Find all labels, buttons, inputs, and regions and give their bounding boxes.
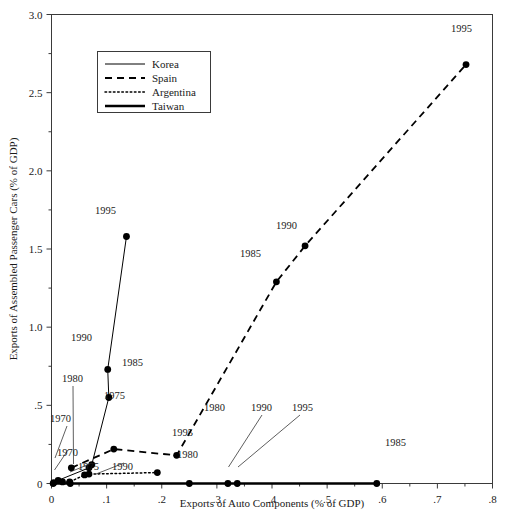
annotation-spain-1985: 1985	[240, 248, 261, 259]
chart-legend: KoreaSpainArgentinaTaiwan	[98, 52, 211, 113]
annotation-spain-1975: 1975	[104, 390, 125, 401]
x-tick-label: .7	[433, 493, 442, 505]
x-tick-label: .2	[158, 493, 166, 505]
x-tick-label: .6	[378, 493, 387, 505]
data-point-taiwan-1975	[67, 480, 74, 487]
x-tick-label: 0	[49, 493, 55, 505]
data-point-taiwan-1995	[234, 480, 241, 487]
annotation-korea-1995: 1995	[95, 205, 116, 216]
figure-container: 0.1.2.3.4.5.6.7.8 0.51.01.52.02.53.0 199…	[0, 0, 508, 524]
y-tick-label: 2.0	[29, 165, 43, 177]
annotation-taiwan-1990: 1990	[251, 402, 272, 413]
y-tick-label: 1.5	[29, 243, 43, 255]
annotation-korea-1980: 1980	[62, 373, 83, 384]
y-tick-label: 1.0	[29, 321, 43, 333]
data-point-taiwan-1970	[50, 480, 57, 487]
data-point-argentina-1980	[59, 479, 66, 486]
scatter-chart: 0.1.2.3.4.5.6.7.8 0.51.01.52.02.53.0 199…	[0, 0, 508, 524]
data-point-spain-1975	[110, 446, 117, 453]
y-tick-label: .5	[34, 399, 43, 411]
data-point-spain-1990	[302, 242, 309, 249]
data-point-korea-1990	[104, 366, 111, 373]
data-point-spain-1995	[463, 61, 470, 68]
data-point-taiwan-1985	[373, 480, 380, 487]
annotation-korea-1970: 1970	[50, 413, 71, 424]
annotation-argentina-1995: 1995	[172, 427, 193, 438]
legend-label-argentina: Argentina	[152, 86, 196, 98]
data-point-taiwan-1980	[186, 480, 193, 487]
annotation-taiwan-1980: 1980	[177, 449, 198, 460]
y-tick-label: 2.5	[29, 87, 43, 99]
x-tick-label: .8	[488, 493, 497, 505]
annotation-taiwan-1990: 1990	[112, 461, 133, 472]
y-tick-label: 0	[37, 478, 43, 490]
annotation-spain-1995: 1995	[451, 23, 472, 34]
annotation-korea-1985: 1985	[122, 357, 143, 368]
annotation-korea-1990: 1990	[71, 332, 92, 343]
data-point-argentina-1995	[154, 469, 161, 476]
legend-label-spain: Spain	[152, 72, 178, 84]
annotation-taiwan-1995: 1995	[292, 402, 313, 413]
data-point-spain-1985	[273, 278, 280, 285]
data-point-taiwan-1990	[225, 480, 232, 487]
figure-background	[0, 0, 508, 524]
annotation-spain-1990: 1990	[276, 220, 297, 231]
annotation-spain-1980: 1980	[204, 402, 225, 413]
y-axis-title: Exports of Assembled Passenger Cars (% o…	[7, 137, 20, 360]
data-point-korea-1995	[123, 233, 130, 240]
y-tick-label: 3.0	[29, 9, 43, 21]
annotation-taiwan-1970: 1970	[57, 447, 78, 458]
legend-label-taiwan: Taiwan	[152, 100, 185, 112]
annotation-taiwan-1975: 1975	[78, 461, 99, 472]
x-tick-label: .1	[103, 493, 111, 505]
legend-label-korea: Korea	[152, 58, 179, 70]
annotation-taiwan-1985: 1985	[385, 437, 406, 448]
x-axis-title: Exports of Auto Components (% of GDP)	[180, 497, 365, 510]
